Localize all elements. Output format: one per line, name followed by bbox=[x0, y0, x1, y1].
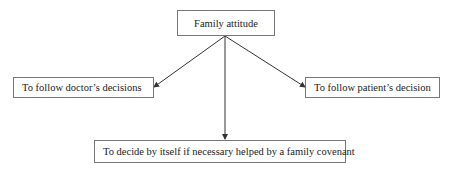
node-label: Family attitude bbox=[194, 18, 258, 29]
node-label: To follow patient’s decision bbox=[314, 82, 431, 93]
arrow-to-patient bbox=[225, 36, 305, 87]
node-label: To decide by itself if necessary helped … bbox=[103, 146, 355, 157]
node-follow-doctor: To follow doctor’s decisions bbox=[13, 77, 154, 98]
arrow-to-doctor bbox=[154, 36, 225, 87]
node-follow-patient: To follow patient’s decision bbox=[305, 77, 440, 98]
node-decide-by-itself: To decide by itself if necessary helped … bbox=[94, 140, 346, 163]
node-family-attitude: Family attitude bbox=[177, 10, 275, 36]
node-label: To follow doctor’s decisions bbox=[22, 82, 142, 93]
